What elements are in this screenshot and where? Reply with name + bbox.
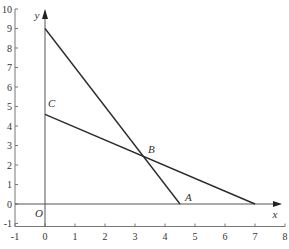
y-axis-label: y xyxy=(34,9,40,21)
y-tick-label: 6 xyxy=(7,82,12,93)
point-label-a: A xyxy=(184,191,192,203)
y-tick-label: 10 xyxy=(2,4,12,15)
x-axis-arrow-icon xyxy=(273,201,282,207)
y-tick-label: -1 xyxy=(4,218,12,229)
line-1 xyxy=(45,29,180,205)
y-tick-label: 8 xyxy=(7,43,12,54)
y-tick-label: 0 xyxy=(7,199,12,210)
y-tick-label: 1 xyxy=(7,179,12,190)
x-tick-label: 2 xyxy=(103,231,108,242)
x-tick-label: 0 xyxy=(43,231,48,242)
linear-programming-chart: -1012345678910-1012345678yxOABC xyxy=(0,0,289,249)
y-axis-arrow-icon xyxy=(42,9,48,19)
x-tick-label: 6 xyxy=(223,231,228,242)
x-tick-label: 7 xyxy=(253,231,258,242)
line-2 xyxy=(45,114,255,204)
y-tick-label: 5 xyxy=(7,101,12,112)
x-axis-label: x xyxy=(272,208,278,220)
point-label-o: O xyxy=(35,207,43,219)
point-label-c: C xyxy=(48,97,56,109)
point-label-b: B xyxy=(148,143,155,155)
y-tick-label: 3 xyxy=(7,140,12,151)
x-tick-label: 1 xyxy=(73,231,78,242)
x-tick-label: 8 xyxy=(283,231,288,242)
x-tick-label: 3 xyxy=(133,231,138,242)
y-tick-label: 4 xyxy=(7,121,12,132)
y-tick-label: 9 xyxy=(7,23,12,34)
x-tick-label: -1 xyxy=(11,231,19,242)
y-tick-label: 2 xyxy=(7,160,12,171)
y-tick-label: 7 xyxy=(7,62,12,73)
x-tick-label: 4 xyxy=(163,231,168,242)
x-tick-label: 5 xyxy=(193,231,198,242)
